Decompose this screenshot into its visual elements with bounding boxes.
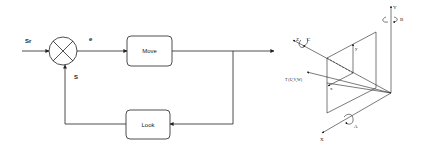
feedback-label: S (74, 74, 78, 80)
coordinate-frame (293, 6, 397, 133)
c-rotation-label: C (307, 37, 311, 42)
summing-junction (49, 37, 77, 65)
image-x-label: x (330, 86, 333, 91)
image-x-axis (328, 73, 353, 86)
y-axis-label: Y (393, 5, 397, 10)
rotation-b-icon (383, 17, 397, 22)
b-rotation-label: B (400, 17, 404, 22)
feedback-down-line (170, 51, 233, 124)
image-plane (327, 32, 376, 113)
projection-dashed (327, 58, 353, 73)
input-label: Sr (25, 38, 32, 44)
diagram-canvas: Sr e S Move Look Y B Z C y T (U,V,W) (0, 0, 424, 151)
image-y-label: y (355, 46, 358, 51)
look-block-label: Look (141, 122, 155, 128)
x-axis-label: X (320, 137, 324, 142)
z-axis-label: Z (296, 37, 299, 42)
point-t-label: T (U,V,W) (285, 77, 303, 83)
move-block-label: Move (142, 48, 157, 54)
error-label: e (89, 36, 93, 42)
a-rotation-label: A (354, 124, 358, 129)
